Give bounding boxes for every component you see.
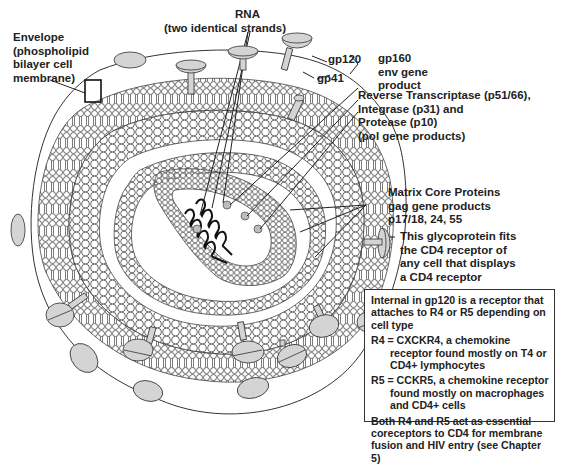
info-r4: R4 = CXCKR4, a chemokine receptor found …	[371, 334, 549, 371]
coreceptor-info-box: Internal in gp120 is a receptor that att…	[364, 289, 555, 422]
gag-label: Matrix Core Proteins gag gene products p…	[388, 186, 500, 227]
rna-label: RNA (two identical strands)	[209, 8, 286, 35]
gp41-label: gp41	[317, 72, 344, 86]
gp120-label: gp120	[328, 53, 361, 67]
gp160-label: gp160 env gene product	[378, 52, 428, 93]
glycoprotein-label: This glycoprotein fits the CD4 receptor …	[400, 230, 516, 284]
knob-top-1	[114, 52, 146, 68]
knob-bottom-1	[65, 338, 104, 378]
knob-top-4-free	[281, 33, 312, 70]
knob-top-3	[228, 46, 258, 70]
envelope-label: Envelope (phospholipid bilayer cell memb…	[13, 31, 89, 85]
info-both: Both R4 and R5 act as essential corecept…	[371, 415, 549, 464]
info-intro: Internal in gp120 is a receptor that att…	[371, 294, 549, 331]
info-r5: R5 = CCKR5, a chemokine receptor found m…	[371, 374, 549, 411]
pol-label: Reverse Transcriptase (p51/66), Integras…	[358, 89, 531, 143]
knob-left-1	[11, 214, 25, 246]
